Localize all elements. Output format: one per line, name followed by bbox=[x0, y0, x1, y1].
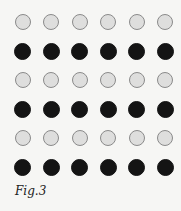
light-circle bbox=[100, 72, 116, 88]
light-circle bbox=[72, 72, 88, 88]
dark-circle bbox=[14, 159, 31, 176]
dark-circle bbox=[71, 159, 88, 176]
light-circle bbox=[72, 14, 88, 30]
light-circle bbox=[157, 130, 173, 146]
dark-circle bbox=[43, 101, 60, 118]
dark-circle bbox=[100, 101, 117, 118]
light-circle bbox=[157, 14, 173, 30]
light-circle bbox=[129, 130, 145, 146]
light-circle bbox=[72, 130, 88, 146]
dark-circle bbox=[100, 159, 117, 176]
dark-circle bbox=[14, 101, 31, 118]
dark-circle bbox=[71, 101, 88, 118]
dark-circle bbox=[71, 43, 88, 60]
dark-circle bbox=[128, 101, 145, 118]
dark-circle bbox=[14, 43, 31, 60]
dark-circle bbox=[100, 43, 117, 60]
dark-circle bbox=[157, 159, 174, 176]
light-circle bbox=[100, 14, 116, 30]
dark-circle bbox=[157, 101, 174, 118]
light-circle bbox=[43, 130, 59, 146]
dark-circle bbox=[43, 159, 60, 176]
dark-circle bbox=[157, 43, 174, 60]
light-circle bbox=[15, 14, 31, 30]
dark-circle bbox=[128, 43, 145, 60]
dark-circle bbox=[43, 43, 60, 60]
light-circle bbox=[129, 14, 145, 30]
light-circle bbox=[157, 72, 173, 88]
light-circle bbox=[15, 72, 31, 88]
light-circle bbox=[43, 14, 59, 30]
dot-grid bbox=[0, 0, 181, 190]
dark-circle bbox=[128, 159, 145, 176]
figure-caption: Fig.3 bbox=[15, 184, 46, 198]
light-circle bbox=[43, 72, 59, 88]
light-circle bbox=[129, 72, 145, 88]
light-circle bbox=[100, 130, 116, 146]
light-circle bbox=[15, 130, 31, 146]
